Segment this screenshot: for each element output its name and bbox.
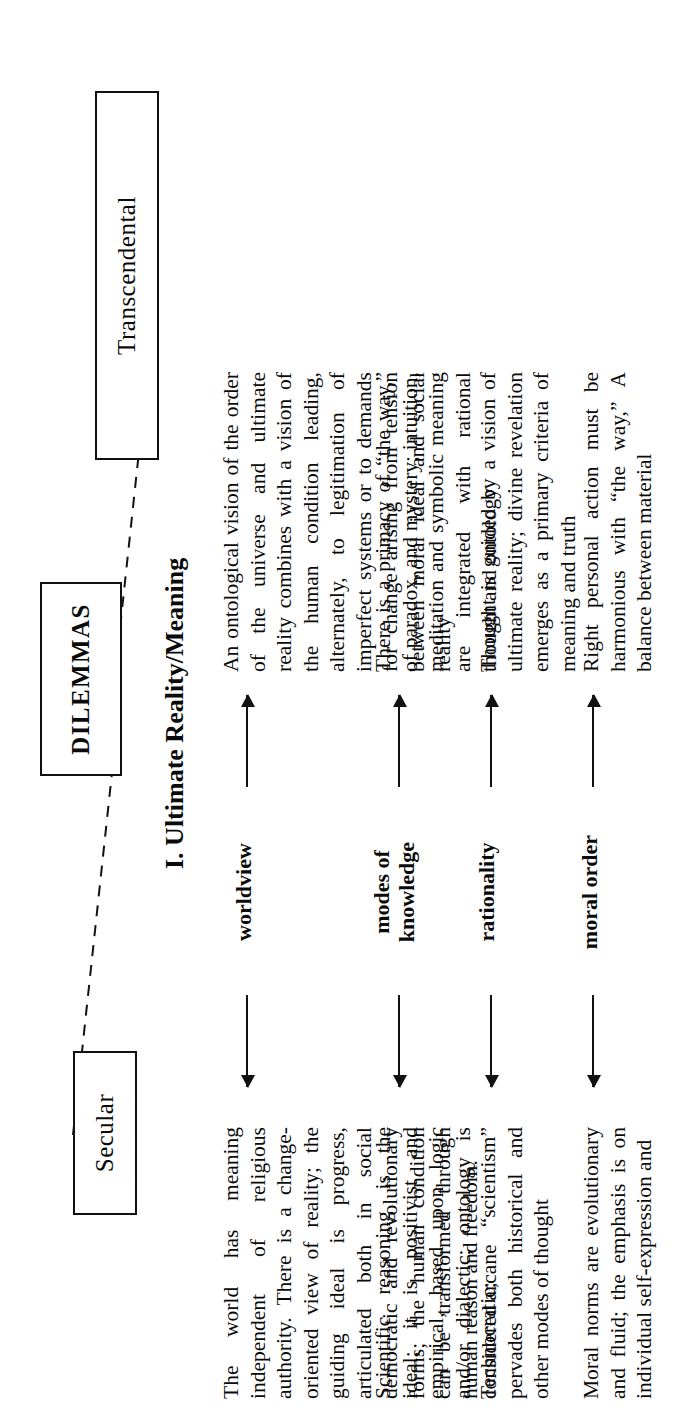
row-label-line: rationality [475,807,500,977]
row-label-line: knowledge [395,807,420,977]
right-arrow-icon [592,695,594,787]
row-label-line: modes of [370,807,395,977]
row-label: rationality [475,807,500,977]
row-secular-text: Moral norms are evolutionary and fluid; … [578,1127,658,1399]
scanned-page: Secular DILEMMAS Transcendental I. Ultim… [0,0,681,1417]
left-arrow-icon [246,995,248,1087]
left-arrow-icon [592,995,594,1087]
left-arrow-icon [398,995,400,1087]
title-box-dilemmas-label: DILEMMAS [67,603,95,754]
rotated-page-wrapper: Secular DILEMMAS Transcendental I. Ultim… [0,0,681,1417]
pole-box-transcendental-label: Transcendental [113,196,141,355]
row-label-line: worldview [232,807,257,977]
right-arrow-icon [398,695,400,787]
pole-box-secular-label: Secular [91,1094,119,1172]
row-label: modes of knowledge [370,807,419,977]
section-heading: I. Ultimate Reality/Meaning [160,558,190,869]
row-transcendental-text: Right personal action must be harmonious… [578,372,658,672]
row-label-line: moral order [578,807,603,977]
pole-box-secular[interactable]: Secular [73,1051,137,1215]
right-arrow-icon [490,695,492,787]
left-arrow-icon [490,995,492,1087]
row-secular-text: Technocratic; “scientism” pervades both … [475,1127,555,1399]
title-box-dilemmas[interactable]: DILEMMAS [40,582,122,776]
right-arrow-icon [246,695,248,787]
row-transcendental-text: Thought is guided by a vision of ultimat… [475,372,581,672]
pole-box-transcendental[interactable]: Transcendental [95,91,159,460]
row-label: worldview [232,807,257,977]
row-label: moral order [578,807,603,977]
